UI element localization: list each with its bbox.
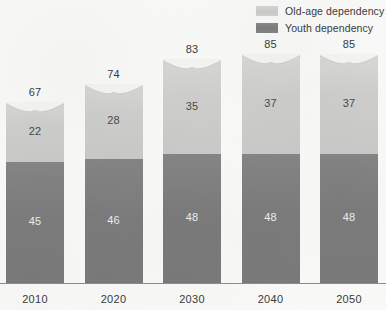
x-axis-tick-label: 2020 — [85, 293, 143, 305]
bar-value-label-old-age: 35 — [163, 100, 221, 112]
bar-segment-old-age: 37 — [320, 54, 378, 154]
x-axis-tick-label: 2030 — [163, 293, 221, 305]
bar-value-label-youth: 45 — [6, 215, 64, 227]
bar-segment-old-age: 28 — [85, 84, 143, 159]
bar-group: 674522 — [6, 102, 64, 283]
bar-segment-old-age: 22 — [6, 102, 64, 161]
bar-value-label-youth: 46 — [85, 214, 143, 226]
bar-segment-youth: 45 — [6, 162, 64, 283]
bar-segment-youth: 46 — [85, 159, 143, 283]
bar-group: 834835 — [163, 59, 221, 283]
bar-top-cap — [163, 59, 221, 70]
bar-segment-youth: 48 — [163, 154, 221, 283]
bar-top-cap — [6, 102, 64, 113]
bar-total-label: 83 — [163, 43, 221, 55]
bar-value-label-old-age: 37 — [320, 97, 378, 109]
bar-value-label-old-age: 28 — [85, 114, 143, 126]
x-axis-line — [0, 283, 386, 284]
bar-segment-old-age: 37 — [242, 54, 300, 154]
bar-value-label-youth: 48 — [242, 211, 300, 223]
bar-total-label: 74 — [85, 68, 143, 80]
bar-top-cap — [242, 54, 300, 65]
x-axis-tick-label: 2040 — [242, 293, 300, 305]
bar-segment-youth: 48 — [242, 154, 300, 283]
bar-value-label-old-age: 22 — [6, 125, 64, 137]
bar-total-label: 85 — [242, 38, 300, 50]
bar-segment-youth: 48 — [320, 154, 378, 283]
bar-group: 854837 — [320, 54, 378, 283]
bar-segment-old-age: 35 — [163, 59, 221, 153]
bar-top-cap — [320, 54, 378, 65]
x-axis-tick-label: 2050 — [320, 293, 378, 305]
bar-group: 744628 — [85, 84, 143, 283]
bar-total-label: 67 — [6, 86, 64, 98]
bar-value-label-old-age: 37 — [242, 97, 300, 109]
bar-value-label-youth: 48 — [320, 211, 378, 223]
dependency-ratio-chart: Old-age dependency Youth dependency 6745… — [0, 0, 386, 310]
bar-value-label-youth: 48 — [163, 211, 221, 223]
plot-area: 6745222010744628202083483520308548372040… — [0, 0, 386, 310]
bar-total-label: 85 — [320, 38, 378, 50]
bar-group: 854837 — [242, 54, 300, 283]
x-axis-tick-label: 2010 — [6, 293, 64, 305]
bar-top-cap — [85, 84, 143, 95]
